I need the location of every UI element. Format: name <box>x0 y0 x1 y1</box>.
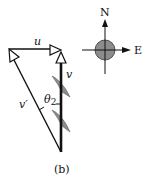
angle-tick <box>39 107 44 110</box>
v-prime-arrowhead-icon <box>9 49 19 62</box>
v-prime-label: v′ <box>19 98 28 111</box>
east-label: E <box>134 44 142 57</box>
north-arrow-icon <box>102 19 108 27</box>
theta-label: θ2 <box>44 93 56 107</box>
vector-diagram: u v v′ θ2 N E (b) <box>0 0 146 182</box>
compass: N E <box>82 6 142 74</box>
v-arrowhead-icon <box>56 52 66 63</box>
figure-caption: (b) <box>54 163 70 176</box>
u-arrowhead-icon <box>50 45 61 55</box>
north-label: N <box>100 6 110 19</box>
u-label: u <box>34 35 41 48</box>
east-arrow-icon <box>122 47 131 53</box>
v-label: v <box>66 68 73 81</box>
